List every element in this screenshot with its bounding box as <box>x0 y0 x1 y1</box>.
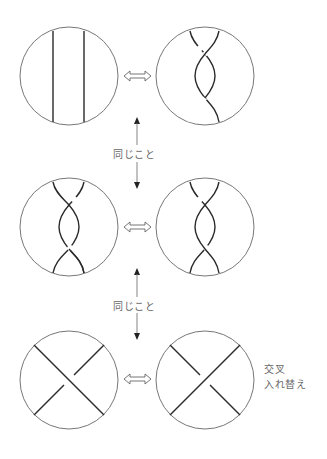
circle-row1-right <box>156 27 254 125</box>
circle-row3-right <box>156 331 254 429</box>
same-label-2: 同じこと <box>113 298 155 313</box>
same-label-1: 同じこと <box>113 146 155 161</box>
double-arrow-icon <box>124 222 151 232</box>
double-arrow-icon <box>124 374 151 384</box>
swap-label-line1: 交叉 <box>264 361 285 376</box>
circle-row1-left <box>20 27 118 125</box>
circle-row2-right <box>156 178 254 276</box>
circle-row2-left <box>20 178 118 276</box>
circle-row3-left <box>20 331 118 429</box>
double-arrow-icon <box>124 71 151 81</box>
swap-label-line2: 入れ替え <box>264 376 306 391</box>
